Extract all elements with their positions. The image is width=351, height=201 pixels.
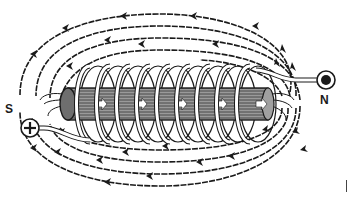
iron-core [60,88,274,120]
edge-mark [346,180,347,192]
negative-terminal [317,71,335,89]
positive-terminal [21,119,39,137]
field-arrows-upper [30,12,296,71]
north-pole-label: N [320,94,329,106]
electromagnet-diagram [0,0,351,201]
south-pole-label: S [5,103,13,115]
